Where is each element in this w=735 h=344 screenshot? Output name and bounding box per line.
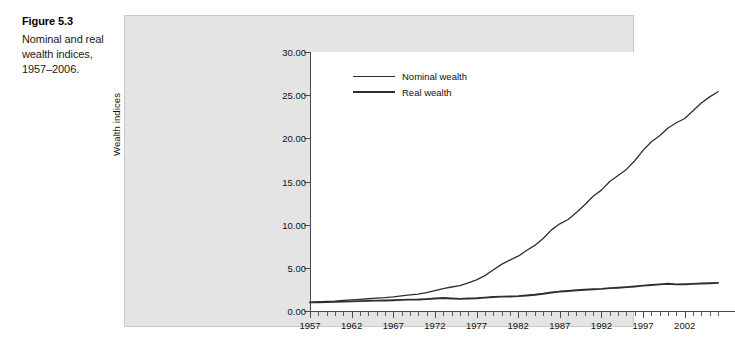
legend-item-real-wealth: Real wealth <box>353 84 467 100</box>
x-tick-mark-minor <box>410 312 411 316</box>
x-tick-mark-minor <box>485 312 486 316</box>
x-tick-mark-minor <box>327 312 328 316</box>
x-tick-mark-minor <box>551 312 552 316</box>
x-tick-mark-minor <box>718 312 719 316</box>
x-tick-mark-minor <box>651 312 652 316</box>
y-tick-label: 10.00 <box>262 219 306 230</box>
x-tick-mark-minor <box>618 312 619 316</box>
x-tick-mark-minor <box>576 312 577 316</box>
y-tick-label-group: 0.005.0010.0015.0020.0025.0030.00 <box>256 52 306 311</box>
legend-swatch <box>353 91 395 93</box>
x-tick-mark-minor <box>510 312 511 316</box>
x-tick-mark-major <box>477 312 478 318</box>
legend-swatch <box>353 76 395 77</box>
x-tick-mark-minor <box>460 312 461 316</box>
x-tick-mark-minor <box>568 312 569 316</box>
x-tick-label: 1977 <box>466 320 487 331</box>
x-tick-mark-minor <box>635 312 636 316</box>
x-tick-mark-minor <box>660 312 661 316</box>
x-tick-label: 1982 <box>508 320 529 331</box>
x-tick-mark-minor <box>593 312 594 316</box>
chart-legend: Nominal wealthReal wealth <box>353 68 467 100</box>
x-tick-mark-minor <box>493 312 494 316</box>
y-tick-label: 0.00 <box>262 306 306 317</box>
x-tick-label: 1972 <box>424 320 445 331</box>
x-tick-mark-major <box>310 312 311 318</box>
x-tick-mark-minor <box>385 312 386 316</box>
x-tick-mark-minor <box>402 312 403 316</box>
x-tick-mark-minor <box>418 312 419 316</box>
figure-caption-text: Nominal and real wealth indices, 1957–20… <box>22 32 118 77</box>
x-tick-mark-minor <box>360 312 361 316</box>
legend-label: Nominal wealth <box>402 71 467 82</box>
x-tick-mark-minor <box>526 312 527 316</box>
x-tick-mark-minor <box>468 312 469 316</box>
x-tick-mark-minor <box>502 312 503 316</box>
figure-number-label: Figure 5.3 <box>22 14 118 29</box>
series-line-real-wealth <box>310 283 718 303</box>
x-tick-mark-minor <box>335 312 336 316</box>
x-tick-label: 1957 <box>299 320 320 331</box>
x-tick-mark-major <box>685 312 686 318</box>
x-tick-mark-minor <box>610 312 611 316</box>
x-tick-mark-minor <box>343 312 344 316</box>
x-tick-mark-minor <box>368 312 369 316</box>
x-tick-mark-major <box>393 312 394 318</box>
x-tick-mark-minor <box>427 312 428 316</box>
y-tick-label: 5.00 <box>262 262 306 273</box>
x-tick-label: 1967 <box>383 320 404 331</box>
x-tick-mark-major <box>435 312 436 318</box>
y-tick-label: 20.00 <box>262 133 306 144</box>
x-tick-mark-minor <box>543 312 544 316</box>
x-tick-mark-minor <box>626 312 627 316</box>
x-tick-mark-major <box>518 312 519 318</box>
x-tick-label: 1997 <box>632 320 653 331</box>
x-tick-mark-minor <box>693 312 694 316</box>
legend-item-nominal-wealth: Nominal wealth <box>353 68 467 84</box>
x-tick-mark-minor <box>443 312 444 316</box>
x-tick-mark-major <box>560 312 561 318</box>
x-tick-mark-minor <box>710 312 711 316</box>
x-tick-label: 1992 <box>591 320 612 331</box>
x-tick-mark-major <box>601 312 602 318</box>
y-tick-label: 30.00 <box>262 47 306 58</box>
x-tick-mark-major <box>643 312 644 318</box>
x-tick-mark-minor <box>701 312 702 316</box>
x-tick-mark-minor <box>318 312 319 316</box>
x-tick-mark-minor <box>377 312 378 316</box>
x-tick-mark-minor <box>585 312 586 316</box>
x-tick-mark-minor <box>676 312 677 316</box>
x-tick-mark-major <box>352 312 353 318</box>
x-tick-mark-minor <box>535 312 536 316</box>
legend-label: Real wealth <box>402 87 452 98</box>
x-tick-mark-minor <box>668 312 669 316</box>
x-tick-label: 2002 <box>674 320 695 331</box>
chart-panel: Wealth indices 0.005.0010.0015.0020.0025… <box>124 15 634 327</box>
y-axis-title: Wealth indices <box>111 93 122 156</box>
x-tick-mark-minor <box>452 312 453 316</box>
y-tick-label: 25.00 <box>262 90 306 101</box>
figure-caption-block: Figure 5.3 Nominal and real wealth indic… <box>22 14 118 77</box>
x-axis-line <box>310 311 735 312</box>
y-tick-label: 15.00 <box>262 176 306 187</box>
series-line-nominal-wealth <box>310 92 718 303</box>
x-tick-label: 1987 <box>549 320 570 331</box>
x-tick-label: 1962 <box>341 320 362 331</box>
